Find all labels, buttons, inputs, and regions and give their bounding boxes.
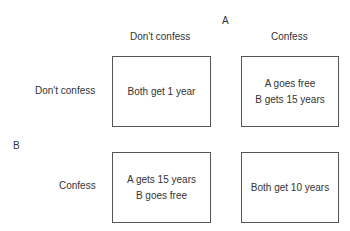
payoff-cell-confess-confess: Both get 10 years: [241, 152, 339, 223]
row-header-confess: Confess: [59, 180, 96, 191]
column-header-dont-confess: Don't confess: [130, 31, 190, 42]
payoff-text: B gets 15 years: [255, 92, 324, 108]
payoff-text: A gets 15 years: [127, 172, 196, 188]
row-header-dont-confess: Don't confess: [35, 85, 95, 96]
column-header-confess: Confess: [271, 31, 308, 42]
payoff-cell-dont-dont: Both get 1 year: [112, 56, 211, 127]
player-b-label: B: [13, 140, 20, 151]
payoff-text: Both get 1 year: [128, 84, 196, 100]
player-a-label: A: [222, 15, 229, 26]
payoff-cell-dont-confess: A goes free B gets 15 years: [241, 56, 339, 127]
payoff-text: B goes free: [136, 188, 187, 204]
payoff-text: A goes free: [265, 76, 316, 92]
payoff-text: Both get 10 years: [251, 180, 329, 196]
payoff-cell-confess-dont: A gets 15 years B goes free: [112, 152, 211, 223]
